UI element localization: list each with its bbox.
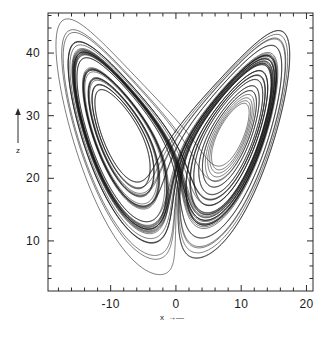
x-axis-title: x→— xyxy=(160,313,184,322)
z-tick-label: 10 xyxy=(10,234,40,248)
trajectory-path xyxy=(56,19,290,275)
x-axis-label-text: x xyxy=(160,313,164,322)
x-tick-label: 20 xyxy=(299,297,313,311)
x-tick-label: 0 xyxy=(172,297,179,311)
x-tick-label: 10 xyxy=(234,297,248,311)
z-axis-label-text: z xyxy=(16,146,20,155)
z-tick-label: 20 xyxy=(10,171,40,185)
plot-canvas xyxy=(0,0,331,337)
x-axis-arrow-icon: →— xyxy=(168,313,184,322)
lorenz-attractor-figure: -1001020 10203040 x→— z xyxy=(0,0,331,337)
z-tick-label: 30 xyxy=(10,109,40,123)
attractor-trajectory xyxy=(56,19,290,275)
z-axis-title: z xyxy=(16,146,20,155)
z-tick-label: 40 xyxy=(10,46,40,60)
x-tick-label: -10 xyxy=(102,297,120,311)
